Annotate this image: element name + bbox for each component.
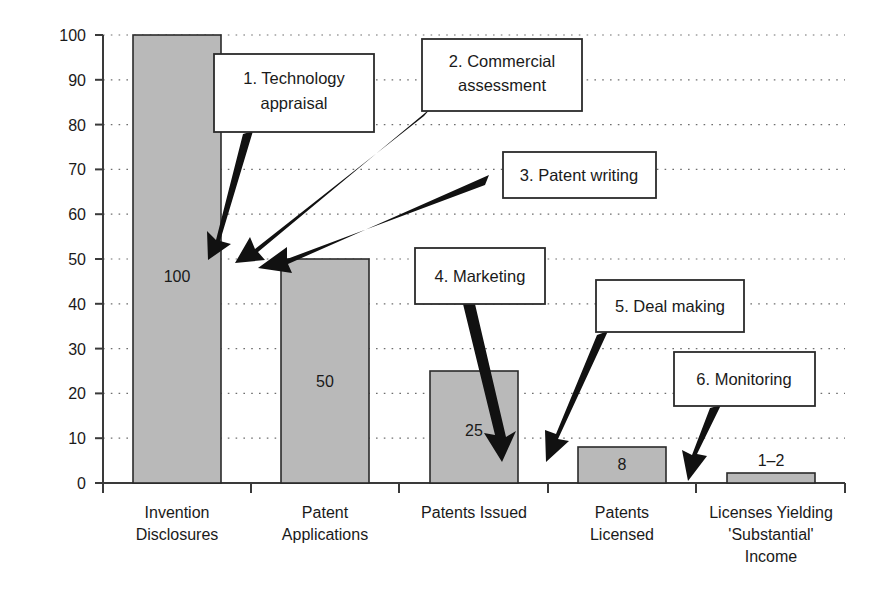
callout-box-1[interactable] <box>214 54 374 132</box>
y-tick-label-80: 80 <box>68 117 86 134</box>
y-tick-label-0: 0 <box>77 475 86 492</box>
bar-value-licenses-substantial-income: 1–2 <box>758 452 785 469</box>
callout-2-line2: assessment <box>458 76 546 94</box>
y-tick-label-60: 60 <box>68 206 86 223</box>
callout-5-line1: 5. Deal making <box>615 297 725 315</box>
bar-patent-applications[interactable] <box>281 259 369 483</box>
bar-value-invention-disclosures: 100 <box>164 268 191 285</box>
callout-commercial-assessment[interactable]: 2. Commercial assessment <box>422 39 582 111</box>
callout-4-line1: 4. Marketing <box>435 267 526 285</box>
y-tick-label-40: 40 <box>68 296 86 313</box>
category-label-patents-licensed-line1: Patents <box>595 504 649 521</box>
callout-monitoring[interactable]: 6. Monitoring <box>674 352 815 406</box>
bar-invention-disclosures[interactable] <box>133 35 221 483</box>
bar-licenses-substantial-income[interactable] <box>727 473 815 483</box>
chart-canvas: 100 90 80 70 60 50 40 30 20 10 0 100 50 … <box>0 0 870 590</box>
y-tick-label-70: 70 <box>68 161 86 178</box>
callout-1-line2: appraisal <box>261 94 328 112</box>
y-axis: 100 90 80 70 60 50 40 30 20 10 0 <box>59 27 103 492</box>
callout-3-line1: 3. Patent writing <box>520 166 638 184</box>
category-label-invention-disclosures-line2: Disclosures <box>136 526 219 543</box>
category-label-patent-applications-line2: Applications <box>282 526 368 543</box>
callout-marketing[interactable]: 4. Marketing <box>415 248 545 304</box>
bar-value-patents-issued: 25 <box>465 422 483 439</box>
category-label-patents-issued-line1: Patents Issued <box>421 504 527 521</box>
callout-6-line1: 6. Monitoring <box>696 370 791 388</box>
bar-value-patent-applications: 50 <box>316 373 334 390</box>
category-labels: Invention Disclosures Patent Application… <box>136 504 833 565</box>
callout-deal-making[interactable]: 5. Deal making <box>596 280 744 332</box>
category-label-licenses-substantial-income-line2: 'Substantial' <box>728 526 813 543</box>
y-tick-label-30: 30 <box>68 341 86 358</box>
callout-box-2[interactable] <box>422 39 582 111</box>
y-tick-label-20: 20 <box>68 385 86 402</box>
arrow-monitoring <box>682 405 721 481</box>
arrow-deal-making <box>545 331 608 462</box>
category-label-patent-applications-line1: Patent <box>302 504 349 521</box>
technology-transfer-funnel-chart: 100 90 80 70 60 50 40 30 20 10 0 100 50 … <box>0 0 870 590</box>
y-tick-label-90: 90 <box>68 72 86 89</box>
callout-2-line1: 2. Commercial <box>449 52 555 70</box>
category-label-licenses-substantial-income-line3: Income <box>745 548 798 565</box>
callout-1-line1: 1. Technology <box>243 69 345 87</box>
category-label-licenses-substantial-income-line1: Licenses Yielding <box>709 504 833 521</box>
category-label-patents-licensed-line2: Licensed <box>590 526 654 543</box>
callout-patent-writing[interactable]: 3. Patent writing <box>503 152 656 198</box>
y-tick-label-10: 10 <box>68 430 86 447</box>
y-tick-label-50: 50 <box>68 251 86 268</box>
x-axis <box>103 483 845 493</box>
y-tick-label-100: 100 <box>59 27 86 44</box>
category-label-invention-disclosures-line1: Invention <box>145 504 210 521</box>
bar-value-patents-licensed: 8 <box>618 456 627 473</box>
callout-technology-appraisal[interactable]: 1. Technology appraisal <box>214 54 374 132</box>
